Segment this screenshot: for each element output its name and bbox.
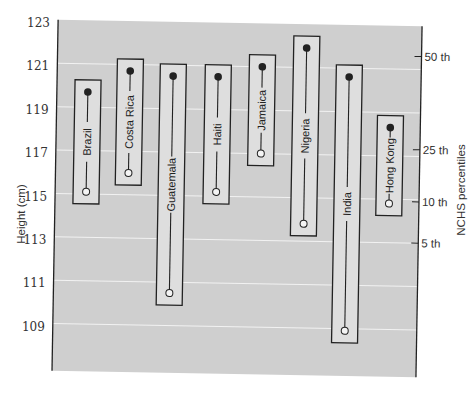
y-tick-label: 117 xyxy=(25,146,48,160)
y-axis-label: Height (cm) xyxy=(15,184,27,244)
country-range-brazil: Brazil xyxy=(73,80,101,204)
percentile-label: 25 th xyxy=(423,144,449,156)
country-range-costa-rica: Costa Rica xyxy=(115,59,143,185)
y-tick-label: 111 xyxy=(23,276,46,290)
percentile-label: 50 th xyxy=(424,51,450,63)
country-label: India xyxy=(341,191,353,216)
country-range-guatemala: Guatemala xyxy=(156,64,186,305)
country-range-india: India xyxy=(332,65,363,343)
country-label: Costa Rica xyxy=(123,94,136,149)
low-point xyxy=(385,200,392,207)
country-range-jamaica: Jamaica xyxy=(248,55,276,166)
y-tick-label: 109 xyxy=(22,320,45,334)
percentile-label: 5 th xyxy=(421,237,440,249)
low-point xyxy=(213,188,220,195)
country-label: Haiti xyxy=(211,123,223,145)
y-tick-label: 115 xyxy=(24,190,47,204)
low-point xyxy=(257,150,264,157)
country-range-nigeria: Nigeria xyxy=(290,36,319,236)
country-label: Guatemala xyxy=(165,157,178,212)
right-axis-label: NCHS percentiles xyxy=(455,144,467,236)
y-tick-label: 119 xyxy=(26,103,49,117)
low-point xyxy=(83,188,90,195)
low-point xyxy=(300,220,307,227)
low-point xyxy=(341,327,348,334)
y-tick-label: 123 xyxy=(27,16,50,30)
percentile-label: 10 th xyxy=(422,196,448,208)
y-axis-ticks: 123121119117115113111109 xyxy=(22,16,50,334)
country-label: Jamaica xyxy=(255,89,268,131)
country-label: Brazil xyxy=(81,128,93,156)
country-range-hong-kong: Hong Kong xyxy=(376,115,404,215)
y-tick-label: 121 xyxy=(26,59,49,73)
plot-panel: BrazilCosta RicaGuatemalaHaitiJamaicaNig… xyxy=(52,20,451,378)
country-label: Nigeria xyxy=(299,118,312,154)
country-label: Hong Kong xyxy=(383,138,396,193)
country-range-haiti: Haiti xyxy=(203,65,231,204)
low-point xyxy=(125,169,132,176)
chart: BrazilCosta RicaGuatemalaHaitiJamaicaNig… xyxy=(0,0,474,394)
low-point xyxy=(166,290,173,297)
